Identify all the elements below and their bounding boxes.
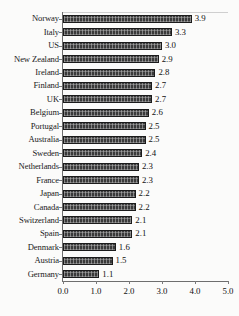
bar-row: France2.3 — [0, 173, 239, 186]
category-label: Austria — [0, 256, 59, 265]
category-label: Australia — [0, 135, 59, 144]
bar-value-label: 2.2 — [139, 203, 150, 212]
x-axis-tick-label: 4.0 — [190, 286, 201, 296]
bar-row: Germany1.1 — [0, 268, 239, 281]
bar-row: Switzerland2.1 — [0, 214, 239, 227]
category-label: Norway — [0, 14, 59, 23]
category-label: Japan — [0, 189, 59, 198]
bar-value-label: 2.7 — [155, 81, 166, 90]
y-axis-tick-mark — [59, 113, 62, 114]
bar — [63, 15, 192, 23]
y-axis-tick-mark — [59, 234, 62, 235]
y-axis-tick-mark — [59, 194, 62, 195]
y-axis-tick-mark — [59, 207, 62, 208]
x-axis-tick-label: 0.0 — [58, 286, 69, 296]
bar-value-label: 2.1 — [135, 216, 146, 225]
y-axis-tick-mark — [59, 261, 62, 262]
y-axis-tick-mark — [59, 153, 62, 154]
bar-row: Japan2.2 — [0, 187, 239, 200]
bar-row: US3.0 — [0, 39, 239, 52]
bar — [63, 243, 116, 251]
y-axis-tick-mark — [59, 247, 62, 248]
bar — [63, 270, 99, 278]
bar-value-label: 2.9 — [162, 55, 173, 64]
bar-value-label: 2.1 — [135, 229, 146, 238]
bar — [63, 28, 172, 36]
category-label: Portugal — [0, 122, 59, 131]
x-axis-tick-mark — [195, 281, 196, 284]
category-label: Sweden — [0, 149, 59, 158]
category-label: New Zealand — [0, 55, 59, 64]
bar-row: Sweden2.4 — [0, 147, 239, 160]
category-label: Finland — [0, 81, 59, 90]
x-axis-tick-label: 2.0 — [124, 286, 135, 296]
bar — [63, 176, 139, 184]
category-label: Canada — [0, 203, 59, 212]
bar-row: Italy3.3 — [0, 25, 239, 38]
y-axis-tick-mark — [59, 19, 62, 20]
category-label: Switzerland — [0, 216, 59, 225]
category-label: Italy — [0, 28, 59, 37]
x-axis-ticks: 0.01.02.03.04.05.0 — [0, 281, 239, 315]
bar — [63, 257, 113, 265]
bar-value-label: 3.9 — [195, 14, 206, 23]
y-axis-tick-mark — [59, 46, 62, 47]
bar-chart: Norway3.9Italy3.3US3.0New Zealand2.9Irel… — [0, 0, 239, 316]
bar-value-label: 3.3 — [175, 28, 186, 37]
y-axis-tick-mark — [59, 86, 62, 87]
y-axis-tick-mark — [59, 73, 62, 74]
bar-rows: Norway3.9Italy3.3US3.0New Zealand2.9Irel… — [0, 12, 239, 281]
bar — [63, 203, 136, 211]
bar-value-label: 2.6 — [152, 108, 163, 117]
bar — [63, 190, 136, 198]
category-label: France — [0, 176, 59, 185]
bar — [63, 109, 149, 117]
x-axis-tick-label: 3.0 — [157, 286, 168, 296]
category-label: Ireland — [0, 68, 59, 77]
bar-value-label: 1.6 — [119, 243, 130, 252]
bar-row: New Zealand2.9 — [0, 52, 239, 65]
bar — [63, 230, 132, 238]
bar-row: Australia2.5 — [0, 133, 239, 146]
category-label: Belgium — [0, 108, 59, 117]
bar-value-label: 2.5 — [149, 122, 160, 131]
bar — [63, 55, 159, 63]
bar-row: Ireland2.8 — [0, 66, 239, 79]
bar-row: Belgium2.6 — [0, 106, 239, 119]
bar — [63, 136, 146, 144]
y-axis-tick-mark — [59, 32, 62, 33]
x-axis-tick-mark — [63, 281, 64, 284]
y-axis-tick-mark — [59, 274, 62, 275]
y-axis-tick-mark — [59, 126, 62, 127]
bar-row: Denmark1.6 — [0, 241, 239, 254]
bar-row: Finland2.7 — [0, 79, 239, 92]
bar-row: Austria1.5 — [0, 254, 239, 267]
bar — [63, 95, 152, 103]
bar — [63, 149, 142, 157]
bar — [63, 163, 139, 171]
bar — [63, 82, 152, 90]
bar — [63, 216, 132, 224]
bar-value-label: 1.5 — [116, 256, 127, 265]
bar-value-label: 2.5 — [149, 135, 160, 144]
y-axis-tick-mark — [59, 180, 62, 181]
bar-row: Netherlands2.3 — [0, 160, 239, 173]
x-axis-tick-mark — [129, 281, 130, 284]
bar-value-label: 2.4 — [145, 149, 156, 158]
x-axis-tick-mark — [228, 281, 229, 284]
category-label: Netherlands — [0, 162, 59, 171]
bar-row: Norway3.9 — [0, 12, 239, 25]
category-label: Denmark — [0, 243, 59, 252]
bar — [63, 122, 146, 130]
bar — [63, 69, 155, 77]
bar-row: Canada2.2 — [0, 200, 239, 213]
bar-value-label: 2.7 — [155, 95, 166, 104]
bar-value-label: 2.3 — [142, 176, 153, 185]
category-label: US — [0, 41, 59, 50]
bar-value-label: 3.0 — [165, 41, 176, 50]
x-axis-tick-mark — [162, 281, 163, 284]
bar-value-label: 2.3 — [142, 162, 153, 171]
bar-value-label: 2.2 — [139, 189, 150, 198]
y-axis-tick-mark — [59, 140, 62, 141]
category-label: UK — [0, 95, 59, 104]
